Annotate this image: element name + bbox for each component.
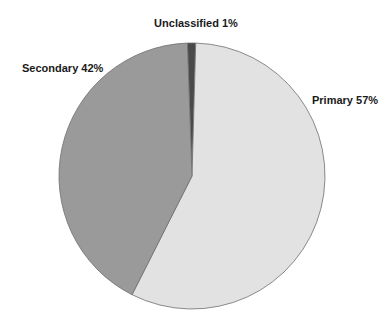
label-primary: Primary 57%: [312, 94, 378, 106]
label-secondary: Secondary 42%: [22, 62, 104, 74]
label-unclassified: Unclassified 1%: [154, 17, 238, 29]
pie-chart: Unclassified 1% Primary 57% Secondary 42…: [0, 0, 388, 324]
pie-slices: [59, 43, 325, 309]
